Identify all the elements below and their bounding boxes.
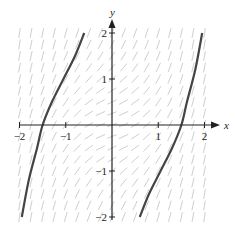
- slope-segment: [168, 178, 171, 187]
- slope-segment: [76, 28, 79, 38]
- slope-segment: [192, 155, 195, 165]
- slope-segment: [133, 201, 137, 210]
- slope-segment: [30, 74, 32, 84]
- slope-segment: [75, 63, 80, 72]
- slope-segment: [74, 110, 81, 117]
- slope-segment: [168, 166, 172, 175]
- slope-segment: [41, 201, 43, 211]
- slope-segment: [120, 168, 127, 175]
- slope-segment: [192, 189, 194, 199]
- slope-segment: [180, 189, 183, 199]
- slope-segment: [143, 133, 150, 140]
- slope-segment: [86, 75, 93, 82]
- slope-segment: [203, 109, 205, 119]
- slope-segment: [144, 178, 149, 187]
- slope-segment: [203, 166, 205, 176]
- slope-segment: [85, 99, 93, 105]
- slope-segment: [168, 51, 171, 61]
- slope-segment: [30, 97, 33, 107]
- slope-segment: [30, 40, 32, 50]
- slope-segment: [192, 28, 194, 38]
- slope-segment: [180, 51, 183, 61]
- slope-segment: [168, 63, 171, 72]
- slope-segment: [96, 111, 105, 115]
- slope-segment: [144, 51, 148, 60]
- slope-segment: [41, 155, 44, 164]
- slope-segment: [52, 178, 55, 187]
- x-axis-label: x: [223, 119, 229, 131]
- slope-segment: [156, 63, 160, 72]
- slope-segment: [19, 189, 21, 199]
- slope-segment: [133, 52, 138, 61]
- slope-segment: [18, 86, 20, 96]
- slope-segment: [192, 212, 194, 222]
- slope-segment: [180, 63, 183, 73]
- slope-segment: [87, 28, 91, 37]
- slope-segment: [52, 63, 55, 72]
- slope-segment: [19, 28, 21, 38]
- slope-segment: [168, 201, 171, 211]
- slope-segment: [52, 166, 56, 175]
- slope-segment: [63, 98, 69, 106]
- slope-segment: [64, 201, 67, 210]
- slope-segment: [203, 74, 205, 84]
- slope-segment: [168, 86, 172, 95]
- slope-segment: [203, 143, 205, 153]
- slope-segment: [168, 97, 172, 106]
- slope-segment: [204, 201, 206, 211]
- slope-segment: [96, 134, 105, 138]
- slope-segment: [19, 40, 21, 50]
- y-tick-label: −2: [95, 211, 107, 223]
- slope-segment: [98, 190, 103, 198]
- slope-segment: [132, 178, 138, 186]
- slope-segment: [64, 51, 68, 60]
- slope-segment: [157, 201, 160, 210]
- slope-segment: [168, 40, 171, 50]
- slope-segment: [180, 40, 182, 50]
- slope-segment: [97, 179, 103, 187]
- slope-segment: [86, 190, 91, 199]
- slope-segment: [180, 155, 183, 164]
- slope-segment: [121, 40, 126, 49]
- slope-segment: [192, 97, 195, 107]
- slope-segment: [19, 201, 21, 211]
- slope-segment: [18, 166, 20, 176]
- slope-segment: [131, 87, 139, 94]
- slope-segment: [168, 74, 172, 83]
- slope-segment: [120, 179, 126, 187]
- slope-segment: [180, 97, 183, 106]
- x-tick-label: −1: [60, 130, 72, 142]
- slope-segment: [85, 134, 93, 139]
- slope-segment: [19, 63, 21, 73]
- slope-segment: [192, 40, 194, 50]
- slope-segment: [98, 40, 103, 49]
- y-tick-label: −1: [95, 165, 107, 177]
- slope-segment: [204, 51, 206, 61]
- slope-segment: [30, 28, 32, 38]
- slope-segment: [63, 109, 69, 117]
- slope-segment: [30, 212, 32, 222]
- slope-segment: [145, 40, 149, 49]
- slope-segment: [121, 52, 126, 60]
- slope-segment: [156, 189, 160, 198]
- slope-segment: [145, 28, 148, 38]
- slope-segment: [41, 143, 44, 152]
- slope-segment: [157, 212, 160, 222]
- slope-segment: [131, 156, 139, 163]
- slope-segment: [131, 111, 139, 116]
- x-axis-arrow-icon: [211, 122, 220, 129]
- slope-segment: [192, 51, 194, 61]
- slope-segment: [75, 178, 80, 187]
- slope-segment: [119, 100, 128, 105]
- slope-segment: [143, 87, 149, 95]
- slope-segment: [86, 52, 91, 61]
- slope-segment: [119, 111, 128, 115]
- slope-segment: [75, 201, 79, 210]
- slope-segment: [156, 75, 161, 84]
- slope-segment: [168, 132, 173, 141]
- slope-segment: [18, 97, 20, 107]
- slope-segment: [64, 28, 67, 38]
- slope-segment: [121, 201, 126, 210]
- slope-segment: [119, 88, 127, 94]
- slope-segment: [41, 189, 44, 199]
